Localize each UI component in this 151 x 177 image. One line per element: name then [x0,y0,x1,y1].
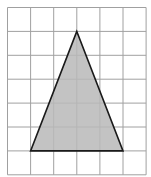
grid-figure [0,0,151,177]
shaded-triangle [31,31,123,150]
diagram [0,0,151,177]
